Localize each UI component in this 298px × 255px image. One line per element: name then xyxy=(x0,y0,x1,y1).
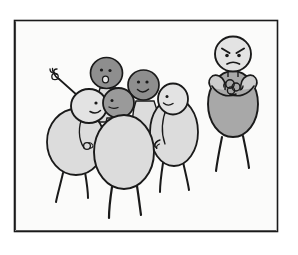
crowd-figure-center-body xyxy=(94,115,154,189)
outsider-eye-left xyxy=(225,54,229,58)
crowd-figure-left-head xyxy=(71,89,107,123)
crowd-figure-back-right-eye-left xyxy=(137,80,140,83)
crowd-figure-back-left-eye-left xyxy=(100,68,103,71)
crowd-figure-back-left-mouth xyxy=(103,76,109,83)
cartoon-illustration xyxy=(0,0,298,255)
crowd-figure-right-eye xyxy=(166,95,169,98)
crowd-figure-back-right-eye-right xyxy=(145,80,148,83)
crowd-figure-back-left-head xyxy=(91,58,123,89)
illustration-canvas: Crowd and Angry Outsider Crowd Outsider xyxy=(0,0,298,255)
crowd-figure-middle-dark-eye xyxy=(111,99,114,102)
crowd-figure-middle-dark-head xyxy=(103,88,134,118)
crowd-figure-back-left-eye-right xyxy=(108,69,111,72)
crowd-figure-left-eye xyxy=(94,101,97,104)
outsider-eye-right xyxy=(237,54,241,58)
outsider-head xyxy=(215,37,251,72)
crowd-figure-right-head xyxy=(158,84,188,115)
